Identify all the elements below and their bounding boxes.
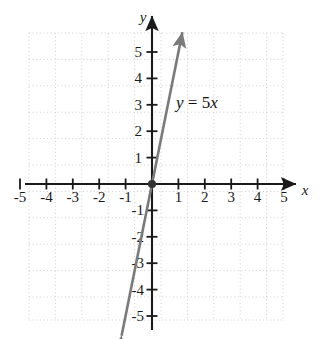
y-tick-label--5: -5: [132, 308, 145, 324]
y-tick-label--1: -1: [132, 202, 145, 218]
x-tick-label--5: -5: [14, 189, 27, 205]
grid-horizontal-lines: [29, 33, 283, 320]
x-tick-label--1: -1: [119, 189, 132, 205]
x-tick-label--3: -3: [67, 189, 80, 205]
equation-label: y = 5x: [174, 93, 218, 112]
y-tick-label-4: 4: [135, 70, 143, 86]
grid-lines: [29, 33, 283, 320]
equation-label-x: x: [209, 93, 218, 112]
equation-label-eq: = 5: [184, 93, 211, 112]
axis-lines: [25, 16, 296, 330]
grid-vertical-lines: [29, 33, 283, 320]
y-tick-label-3: 3: [135, 97, 143, 113]
x-tick-label--2: -2: [93, 189, 106, 205]
x-tick-label--4: -4: [40, 189, 53, 205]
x-tick-label-1: 1: [175, 189, 183, 205]
x-axis-label: x: [301, 182, 309, 198]
x-tick-label-2: 2: [201, 189, 209, 205]
y-tick-label--4: -4: [132, 282, 145, 298]
x-tick-label-4: 4: [254, 189, 262, 205]
origin-point: [148, 180, 156, 188]
equation-label-y: y: [174, 93, 184, 112]
y-tick-label-2: 2: [135, 123, 143, 139]
y-tick-label-5: 5: [135, 44, 143, 60]
coordinate-plane: #plot-svg g[data-name="grid-lines"] line…: [0, 0, 327, 339]
x-tick-label-5: 5: [280, 189, 288, 205]
graph-figure: #plot-svg g[data-name="grid-lines"] line…: [0, 0, 327, 339]
y-tick-label-1: 1: [135, 150, 143, 166]
x-tick-label-3: 3: [227, 189, 235, 205]
y-axis-label: y: [138, 9, 147, 25]
